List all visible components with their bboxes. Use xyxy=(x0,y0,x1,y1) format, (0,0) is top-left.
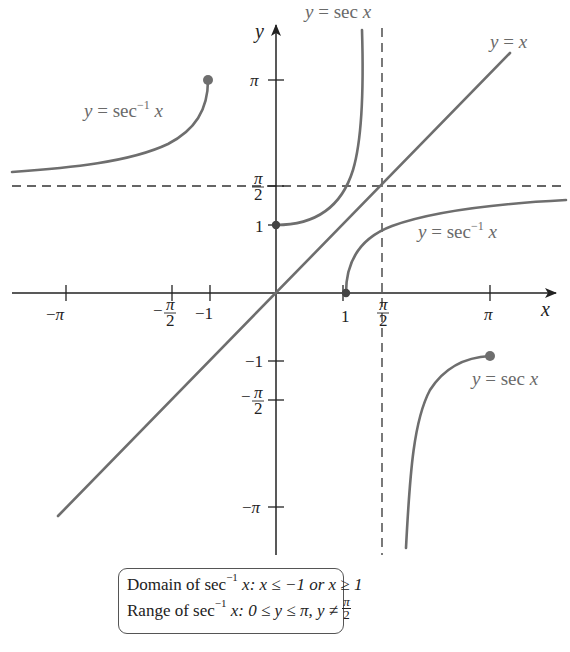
identity-line xyxy=(58,53,510,516)
x-tick-pi: π xyxy=(484,305,493,324)
domain-rest: x: x ≤ −1 or x ≥ 1 xyxy=(238,575,363,594)
label-arcsec-left: y = sec−1 x xyxy=(82,98,163,121)
x-tick-1: 1 xyxy=(341,307,350,326)
label-sec-top: y = sec x xyxy=(303,1,372,22)
domain-line: Domain of sec−1 x: x ≤ −1 or x ≥ 1 xyxy=(127,572,335,598)
range-sup: −1 xyxy=(215,597,227,609)
sec-curve-upper xyxy=(276,30,363,225)
y-tick-pi-half-den: 2 xyxy=(254,185,263,204)
y-tick-neg-pi-half-sign: − xyxy=(241,387,251,406)
y-tick-neg-pi: −π xyxy=(242,498,261,517)
x-tick-pi-half-den: 2 xyxy=(379,311,388,330)
y-tick-neg-pi-half-den: 2 xyxy=(254,399,263,418)
point-0-1 xyxy=(272,221,280,229)
x-axis-label: x xyxy=(540,298,550,320)
y-tick-neg1: −1 xyxy=(245,352,263,371)
range-rest: x: 0 ≤ y ≤ π, y ≠ xyxy=(227,601,343,620)
point-pi-neg1 xyxy=(485,351,495,361)
x-tick-neg-pi-half: − xyxy=(153,301,163,320)
range-fraction: π2 xyxy=(342,596,351,621)
domain-prefix: Domain of sec xyxy=(127,575,226,594)
x-tick-neg-pi: −π xyxy=(46,305,65,324)
label-identity: y = x xyxy=(488,31,528,52)
arcsec-graph: x y −π − π 2 −1 1 π 2 π π π 2 1 −1 − π 2… xyxy=(0,0,570,652)
y-tick-pi: π xyxy=(250,71,259,90)
range-prefix: Range of sec xyxy=(127,601,215,620)
domain-sup: −1 xyxy=(226,571,238,583)
y-tick-1: 1 xyxy=(255,217,264,236)
arcsec-curve-left xyxy=(12,80,208,172)
point-neg1-pi xyxy=(203,75,213,85)
x-tick-neg-pi-half-den: 2 xyxy=(166,311,175,330)
range-line: Range of sec−1 x: 0 ≤ y ≤ π, y ≠ π2 xyxy=(127,598,335,625)
x-tick-neg1: −1 xyxy=(195,304,213,323)
y-axis-label: y xyxy=(253,20,264,43)
point-1-0 xyxy=(342,289,350,297)
label-arcsec-right: y = sec−1 x xyxy=(416,219,497,242)
arcsec-curve-right xyxy=(346,200,566,293)
label-sec-bottom: y = sec x xyxy=(470,368,539,389)
domain-range-box: Domain of sec−1 x: x ≤ −1 or x ≥ 1 Range… xyxy=(118,568,344,634)
y-tick-labels: π π 2 1 −1 − π 2 −π xyxy=(241,71,264,517)
